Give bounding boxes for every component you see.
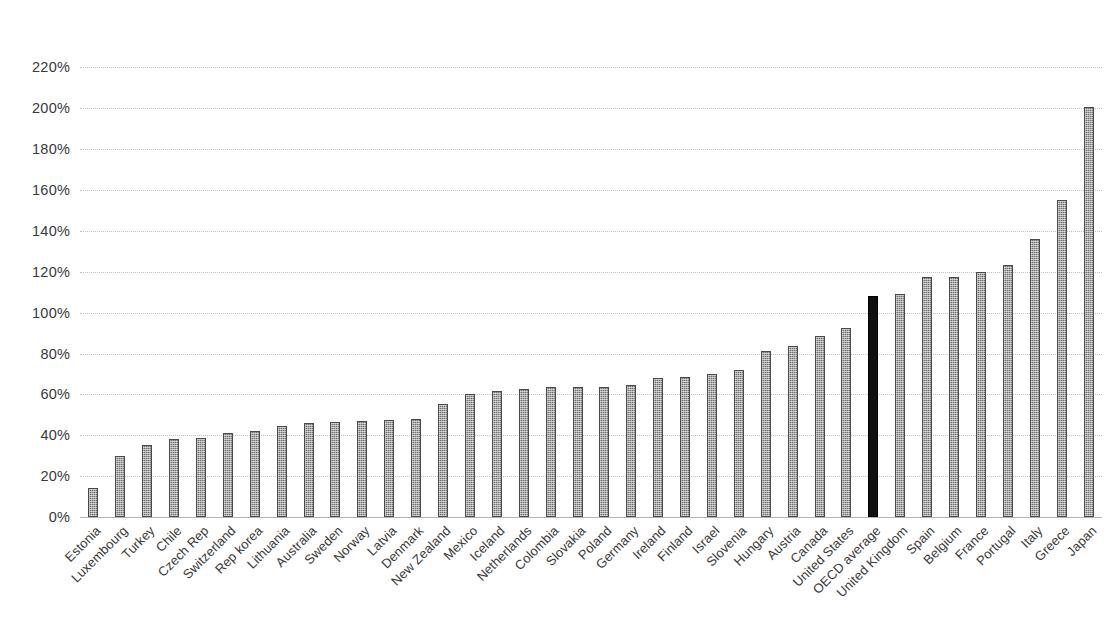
y-axis-tick-label: 0% <box>49 509 70 525</box>
bar-slot <box>564 47 591 517</box>
bar[interactable] <box>1003 265 1013 517</box>
bar-slot <box>887 47 914 517</box>
x-axis-tick: Germany <box>618 519 645 627</box>
x-axis-tick: United Kingdom <box>887 519 914 627</box>
bar[interactable] <box>438 404 448 517</box>
bar-slot <box>752 47 779 517</box>
bar[interactable] <box>411 419 421 517</box>
bar-slot <box>968 47 995 517</box>
bar[interactable] <box>680 377 690 517</box>
y-axis-tick-label: 220% <box>32 59 70 75</box>
x-axis-tick: Italy <box>1021 519 1048 627</box>
y-axis-tick-label: 100% <box>32 305 70 321</box>
bar[interactable] <box>707 374 717 517</box>
x-axis-tick: Colombia <box>537 519 564 627</box>
x-axis-tick: Hungary <box>752 519 779 627</box>
bar[interactable] <box>761 351 771 517</box>
bar[interactable] <box>788 346 798 517</box>
bar[interactable] <box>384 420 394 517</box>
bar-slot <box>833 47 860 517</box>
bar-slot <box>672 47 699 517</box>
x-axis-tick: Finland <box>672 519 699 627</box>
y-axis: 0%20%40%60%80%100%120%140%160%180%200%22… <box>0 47 76 517</box>
x-axis-tick: Lithuania <box>268 519 295 627</box>
x-axis-tick: Ireland <box>645 519 672 627</box>
bar[interactable] <box>223 433 233 517</box>
bar[interactable] <box>841 328 851 517</box>
bar[interactable] <box>1057 200 1067 517</box>
bar-slot <box>806 47 833 517</box>
x-axis-tick: Luxembourg <box>107 519 134 627</box>
bar[interactable] <box>976 272 986 517</box>
bar-slot <box>1048 47 1075 517</box>
bar[interactable] <box>922 277 932 517</box>
bar-slot <box>914 47 941 517</box>
bar-slot <box>457 47 484 517</box>
bar[interactable] <box>653 378 663 517</box>
bar[interactable] <box>626 385 636 517</box>
bar-slot <box>188 47 215 517</box>
bar[interactable] <box>88 488 98 517</box>
bar[interactable] <box>169 439 179 517</box>
bar-slot <box>214 47 241 517</box>
bar-slot <box>537 47 564 517</box>
bar[interactable] <box>277 426 287 517</box>
y-axis-tick-label: 200% <box>32 100 70 116</box>
y-axis-tick-label: 80% <box>40 346 70 362</box>
x-axis-tick: New Zealand <box>430 519 457 627</box>
bar-slot <box>483 47 510 517</box>
bar-slot <box>403 47 430 517</box>
bar-slot <box>1021 47 1048 517</box>
plot-area <box>80 47 1102 517</box>
x-axis-tick: Slovakia <box>564 519 591 627</box>
bar[interactable] <box>330 422 340 517</box>
bar-slot <box>941 47 968 517</box>
bar-slot <box>699 47 726 517</box>
bar-slot <box>779 47 806 517</box>
bar-slot <box>510 47 537 517</box>
bar[interactable] <box>1084 107 1094 517</box>
bar[interactable] <box>519 389 529 517</box>
x-axis-tick: Portugal <box>994 519 1021 627</box>
x-axis-tick: Poland <box>591 519 618 627</box>
bar-slot <box>376 47 403 517</box>
x-axis-tick: Netherlands <box>510 519 537 627</box>
x-axis-tick: Turkey <box>134 519 161 627</box>
x-axis: EstoniaLuxembourgTurkeyChileCzech RepSwi… <box>80 519 1102 627</box>
bar[interactable] <box>949 277 959 517</box>
axis-baseline <box>80 517 1102 518</box>
x-axis-tick: Greece <box>1048 519 1075 627</box>
x-axis-tick: Sweden <box>322 519 349 627</box>
bar-slot <box>161 47 188 517</box>
bar[interactable] <box>895 294 905 517</box>
bar[interactable] <box>465 394 475 517</box>
bar-slot <box>349 47 376 517</box>
bar[interactable] <box>573 387 583 517</box>
bar-slot <box>134 47 161 517</box>
bar-slot <box>430 47 457 517</box>
x-axis-tick: Norway <box>349 519 376 627</box>
bar-slot <box>1075 47 1102 517</box>
y-axis-tick-label: 60% <box>40 386 70 402</box>
bar[interactable] <box>357 421 367 517</box>
bar[interactable] <box>250 431 260 517</box>
bar[interactable] <box>196 438 206 517</box>
bar[interactable] <box>304 423 314 517</box>
bar[interactable] <box>142 445 152 517</box>
x-axis-tick: Spain <box>914 519 941 627</box>
bar-slot <box>107 47 134 517</box>
bar[interactable] <box>599 387 609 517</box>
x-axis-tick: Japan <box>1075 519 1102 627</box>
y-axis-tick-label: 120% <box>32 264 70 280</box>
bar[interactable] <box>1030 239 1040 517</box>
bar[interactable] <box>815 336 825 517</box>
bar[interactable] <box>734 370 744 517</box>
x-axis-tick: France <box>968 519 995 627</box>
bar-slot <box>645 47 672 517</box>
y-axis-tick-label: 180% <box>32 141 70 157</box>
bar[interactable] <box>546 387 556 517</box>
x-axis-tick: Rep korea <box>241 519 268 627</box>
bar[interactable] <box>492 391 502 517</box>
bar[interactable] <box>115 456 125 517</box>
bar-highlighted[interactable] <box>868 296 878 517</box>
